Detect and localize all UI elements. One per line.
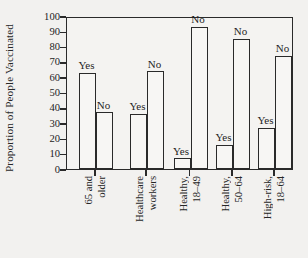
y-axis-tick-label: 20 — [34, 134, 60, 145]
x-axis-category-label: 65 andolder — [78, 176, 112, 256]
bar-answer-label: Yes — [207, 132, 240, 143]
x-axis-category-label: Healthcareworkers — [129, 176, 163, 256]
y-axis-tick-label: 90 — [34, 27, 60, 38]
bar — [233, 39, 250, 169]
y-axis-tick-label: 100 — [34, 12, 60, 23]
x-axis-category-label: Healthy,50–64 — [215, 176, 249, 256]
x-axis-category-label-line: 18–49 — [190, 176, 203, 202]
bar-answer-label: No — [182, 14, 215, 25]
bar — [275, 56, 292, 169]
y-axis-tick-labels: 0102030405060708090100 — [30, 0, 60, 258]
bar-answer-label: Yes — [70, 60, 103, 71]
x-axis-category-label-line: 18–64 — [274, 176, 287, 202]
bar — [216, 145, 233, 169]
y-axis-tick-label: 10 — [34, 149, 60, 160]
x-axis-category-label-line: workers — [146, 176, 159, 210]
bar-answer-label: No — [266, 43, 299, 54]
bar — [96, 112, 113, 169]
x-axis-category-label: Healthy,18–49 — [173, 176, 207, 256]
y-axis-tick-label: 80 — [34, 42, 60, 53]
x-axis-category-label-line: 65 and — [82, 176, 95, 205]
bar-answer-label: Yes — [165, 146, 198, 157]
bar-answer-label: No — [138, 59, 171, 70]
x-axis-category-label-line: High-risk, — [261, 176, 274, 219]
bar-chart-figure: Proportion of People Vaccinated 01020304… — [0, 0, 308, 258]
y-axis-tick-label: 70 — [34, 57, 60, 68]
y-axis-title: Proportion of People Vaccinated — [0, 0, 18, 196]
y-axis-tick-label: 30 — [34, 119, 60, 130]
y-axis-tick-label: 40 — [34, 103, 60, 114]
x-axis-category-label-line: Healthcare — [133, 176, 146, 222]
bar-answer-label: Yes — [121, 101, 154, 112]
x-axis-category-label-line: 50–64 — [232, 176, 245, 202]
bar — [130, 114, 147, 169]
y-axis-tick-label: 60 — [34, 73, 60, 84]
x-axis-category-label-line: Healthy, — [219, 176, 232, 212]
bar — [79, 73, 96, 169]
bar — [258, 128, 275, 169]
x-axis-category-label: High-risk,18–64 — [257, 176, 291, 256]
bar-answer-label: No — [224, 26, 257, 37]
x-axis-category-label-line: Healthy, — [177, 176, 190, 212]
y-axis-title-text: Proportion of People Vaccinated — [3, 24, 15, 172]
bar-answer-label: No — [87, 100, 120, 111]
y-axis-tick-label: 0 — [34, 165, 60, 176]
bar — [174, 158, 191, 169]
y-axis-tick-label: 50 — [34, 88, 60, 99]
x-axis-category-label-line: older — [95, 176, 108, 198]
bar-answer-label: Yes — [249, 115, 282, 126]
bar — [147, 71, 164, 169]
